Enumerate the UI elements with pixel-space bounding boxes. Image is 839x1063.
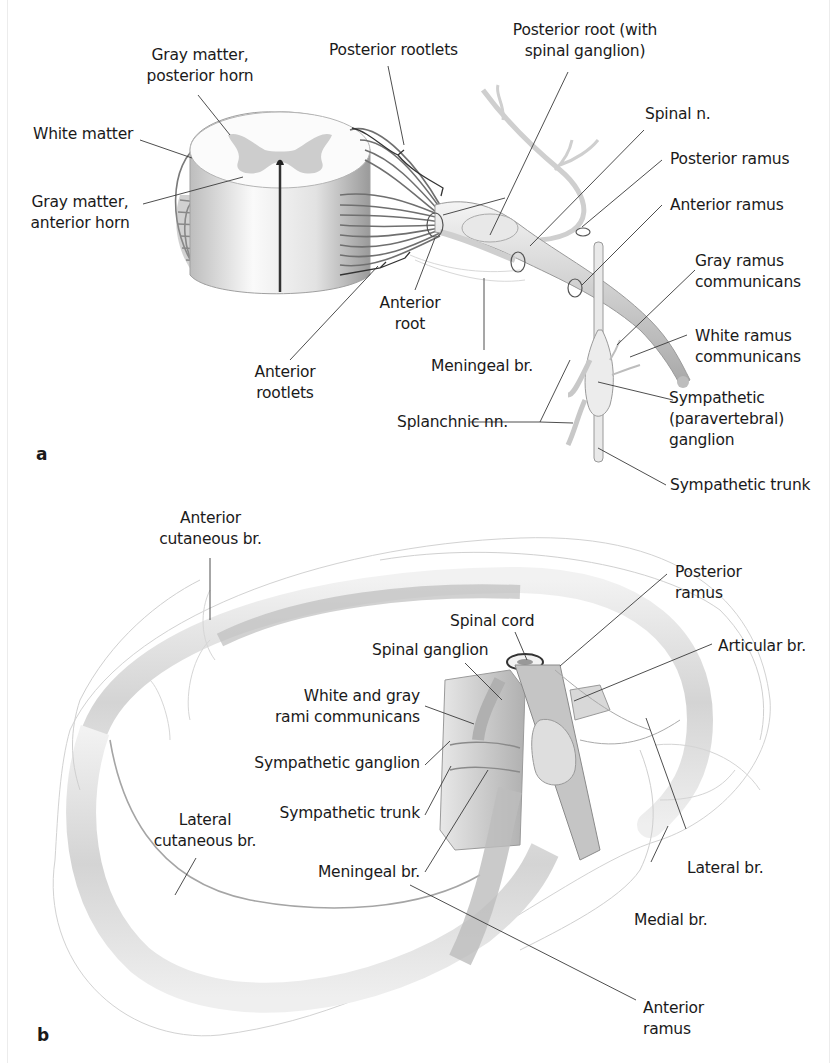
- label-line: communicans: [695, 347, 801, 368]
- label-line: cutaneous br.: [140, 831, 270, 852]
- label-line: Posterior: [675, 562, 742, 583]
- label-spinal-ganglion: Spinal ganglion: [372, 640, 488, 661]
- label-meningeal-br-b: Meningeal br.: [260, 862, 420, 883]
- figure-page: Gray matter, posterior horn Posterior ro…: [0, 0, 839, 1063]
- label-white-ramus-communicans: White ramus communicans: [695, 326, 801, 368]
- label-posterior-ramus-b: Posterior ramus: [675, 562, 742, 604]
- label-line: cutaneous br.: [148, 529, 273, 550]
- label-line: ganglion: [669, 430, 784, 451]
- label-line: ramus: [643, 1019, 704, 1040]
- thoracic-segment-illustration: [53, 538, 770, 1036]
- label-sympathetic-trunk-a: Sympathetic trunk: [670, 475, 810, 496]
- label-gray-matter-anterior-horn: Gray matter, anterior horn: [20, 192, 140, 234]
- label-articular-br: Articular br.: [718, 636, 806, 657]
- label-gray-ramus-communicans: Gray ramus communicans: [695, 251, 801, 293]
- label-line: spinal ganglion): [490, 41, 680, 62]
- label-line: (paravertebral): [669, 409, 784, 430]
- label-line: rami communicans: [260, 707, 420, 728]
- label-sympathetic-paravertebral-ganglion: Sympathetic (paravertebral) ganglion: [669, 388, 784, 451]
- label-line: White and gray: [260, 686, 420, 707]
- label-line: ramus: [675, 583, 742, 604]
- label-posterior-rootlets: Posterior rootlets: [329, 40, 458, 61]
- label-anterior-root: Anterior root: [370, 293, 450, 335]
- label-meningeal-br-a: Meningeal br.: [431, 356, 533, 377]
- label-spinal-cord: Spinal cord: [450, 611, 534, 632]
- label-gray-matter-posterior-horn: Gray matter, posterior horn: [120, 45, 280, 87]
- label-line: communicans: [695, 272, 801, 293]
- label-sympathetic-trunk-b: Sympathetic trunk: [220, 803, 420, 824]
- label-line: Sympathetic: [669, 388, 784, 409]
- label-line: anterior horn: [20, 213, 140, 234]
- label-anterior-cutaneous-br: Anterior cutaneous br.: [148, 508, 273, 550]
- label-anterior-rootlets: Anterior rootlets: [245, 362, 325, 404]
- label-posterior-root: Posterior root (with spinal ganglion): [490, 20, 680, 62]
- label-white-gray-rami-communicans: White and gray rami communicans: [260, 686, 420, 728]
- panel-letter-a: a: [36, 444, 47, 464]
- panel-letter-b: b: [37, 1025, 49, 1045]
- label-splanchnic-nerves: Splanchnic nn.: [397, 412, 508, 433]
- label-line: Anterior: [370, 293, 450, 314]
- label-line: Posterior root (with: [490, 20, 680, 41]
- label-line: Gray matter,: [120, 45, 280, 66]
- label-line: White ramus: [695, 326, 801, 347]
- label-sympathetic-ganglion-b: Sympathetic ganglion: [220, 753, 420, 774]
- label-anterior-ramus-b: Anterior ramus: [643, 998, 704, 1040]
- label-medial-br: Medial br.: [634, 910, 708, 931]
- label-lateral-br: Lateral br.: [687, 858, 763, 879]
- label-posterior-ramus-a: Posterior ramus: [670, 149, 789, 170]
- spinal-nerve: [410, 85, 690, 462]
- label-line: Anterior: [148, 508, 273, 529]
- label-anterior-ramus-a: Anterior ramus: [670, 195, 784, 216]
- label-line: Anterior: [245, 362, 325, 383]
- label-line: Anterior: [643, 998, 704, 1019]
- label-white-matter: White matter: [33, 124, 133, 145]
- label-line: Gray matter,: [20, 192, 140, 213]
- label-spinal-nerve: Spinal n.: [645, 104, 711, 125]
- label-line: root: [370, 314, 450, 335]
- label-line: posterior horn: [120, 66, 280, 87]
- label-line: rootlets: [245, 383, 325, 404]
- label-line: Gray ramus: [695, 251, 801, 272]
